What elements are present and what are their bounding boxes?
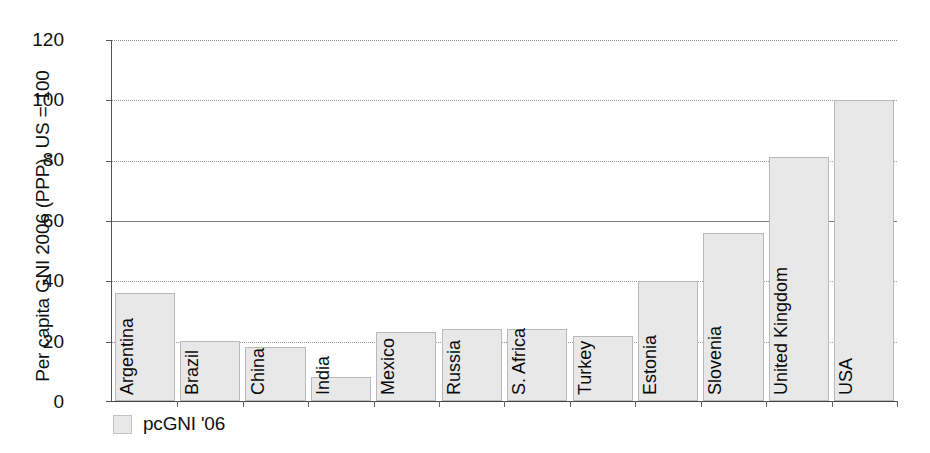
x-tickmark [570, 401, 571, 407]
bar-category-label: Turkey [576, 341, 594, 395]
y-tick-label-60: 60 [4, 211, 64, 230]
bar-group: ArgentinaBrazilChinaIndiaMexicoRussiaS. … [112, 40, 897, 401]
y-tick-label-80: 80 [4, 150, 64, 169]
bar-slot: Mexico [374, 40, 439, 401]
bar-category-label: Slovenia [706, 326, 724, 395]
bar-slot: Slovenia [701, 40, 766, 401]
bar-slot: United Kingdom [766, 40, 831, 401]
x-tickmark [504, 401, 505, 407]
x-tickmark [701, 401, 702, 407]
legend: pcGNI '06 [113, 413, 225, 435]
x-tickmark [308, 401, 309, 407]
bar-category-label: China [249, 348, 267, 395]
bar-category-label: United Kingdom [772, 267, 790, 395]
bar-category-label: S. Africa [510, 328, 528, 395]
bar-category-label: India [314, 356, 332, 395]
bar-category-label: Brazil [183, 350, 201, 395]
bar-slot: Turkey [570, 40, 635, 401]
bar-slot: Estonia [635, 40, 700, 401]
x-tickmark [635, 401, 636, 407]
x-tickmark [374, 401, 375, 407]
x-tickmark [243, 401, 244, 407]
x-tickmark [897, 401, 898, 407]
bar-slot: India [308, 40, 373, 401]
bar-slot: China [243, 40, 308, 401]
y-tick-label-120: 120 [4, 30, 64, 49]
bar-slot: Brazil [177, 40, 242, 401]
x-tickmark [832, 401, 833, 407]
y-tick-label-0: 0 [4, 392, 64, 411]
bar-category-label: Argentina [118, 318, 136, 395]
y-tick-label-40: 40 [4, 271, 64, 290]
bar-category-label: Mexico [379, 338, 397, 395]
legend-swatch-pcgni [113, 415, 132, 434]
y-tick-label-20: 20 [4, 332, 64, 351]
x-tickmark [439, 401, 440, 407]
bar-category-label: Estonia [641, 335, 659, 395]
y-tick-label-100: 100 [4, 90, 64, 109]
bar-slot: USA [832, 40, 897, 401]
x-tickmark [766, 401, 767, 407]
legend-label-pcgni: pcGNI '06 [143, 413, 225, 435]
x-tickmark [177, 401, 178, 407]
plot-area: ArgentinaBrazilChinaIndiaMexicoRussiaS. … [111, 40, 897, 402]
bar-category-label: Russia [445, 340, 463, 395]
bar-slot: S. Africa [505, 40, 570, 401]
bar-slot: Argentina [112, 40, 177, 401]
bar-category-label: USA [837, 358, 855, 395]
bar[interactable] [834, 100, 894, 401]
bar-slot: Russia [439, 40, 504, 401]
y-tickmark-0 [106, 401, 112, 402]
bar-chart: Per capita GNI 2006 (PPP), US = 100 120 … [0, 0, 930, 453]
